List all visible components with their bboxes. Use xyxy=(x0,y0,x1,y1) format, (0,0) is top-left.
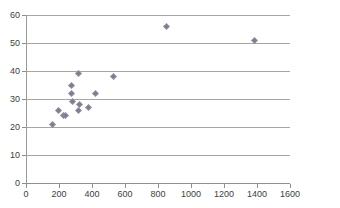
y-tick-10 xyxy=(22,155,26,156)
data-point xyxy=(110,73,117,80)
plot-area xyxy=(26,15,290,183)
x-tick-1200 xyxy=(224,184,225,188)
y-axis-labels: 0102030405060 xyxy=(0,0,20,208)
data-point xyxy=(75,107,82,114)
y-tick-label-40: 40 xyxy=(0,67,20,76)
x-tick-400 xyxy=(92,184,93,188)
y-tick-label-50: 50 xyxy=(0,39,20,48)
x-tick-1400 xyxy=(257,184,258,188)
gridline-y-40 xyxy=(26,71,290,72)
data-point xyxy=(55,107,62,114)
data-point xyxy=(68,81,75,88)
x-tick-1000 xyxy=(191,184,192,188)
gridline-y-50 xyxy=(26,43,290,44)
data-point xyxy=(92,90,99,97)
gridline-y-20 xyxy=(26,127,290,128)
gridline-y-60 xyxy=(26,15,290,16)
x-tick-200 xyxy=(59,184,60,188)
scatter-chart: 0102030405060 02004006008001000120014001… xyxy=(0,0,340,208)
data-point xyxy=(85,104,92,111)
data-point xyxy=(69,98,76,105)
x-tick-600 xyxy=(125,184,126,188)
y-tick-label-30: 30 xyxy=(0,95,20,104)
y-tick-label-60: 60 xyxy=(0,11,20,20)
x-tick-1600 xyxy=(290,184,291,188)
gridline-y-30 xyxy=(26,99,290,100)
y-tick-60 xyxy=(22,15,26,16)
y-tick-20 xyxy=(22,127,26,128)
x-tick-0 xyxy=(26,184,27,188)
x-tick-800 xyxy=(158,184,159,188)
y-tick-label-0: 0 xyxy=(0,179,20,188)
data-point xyxy=(163,23,170,30)
y-tick-50 xyxy=(22,43,26,44)
y-tick-40 xyxy=(22,71,26,72)
y-axis-line xyxy=(26,15,27,184)
gridline-y-10 xyxy=(26,155,290,156)
y-tick-30 xyxy=(22,99,26,100)
x-tick-label-1600: 1600 xyxy=(270,190,310,199)
y-tick-label-20: 20 xyxy=(0,123,20,132)
y-tick-label-10: 10 xyxy=(0,151,20,160)
data-point xyxy=(68,90,75,97)
